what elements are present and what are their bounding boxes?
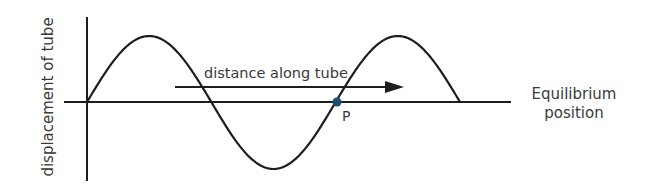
arrow-label: distance along tube [204,65,348,81]
equilibrium-label-line1: Equilibrium [532,85,617,103]
point-p-marker [333,98,342,107]
point-p-label: P [342,108,350,124]
equilibrium-label-line2: position [544,104,603,122]
y-axis-label: displacement of tube [39,17,57,176]
wave-diagram: displacement of tube distance along tube… [0,0,662,196]
distance-arrow-head [385,81,404,93]
